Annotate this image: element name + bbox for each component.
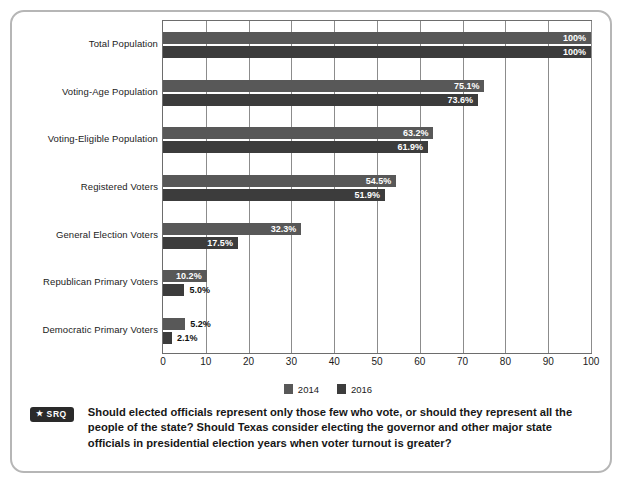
bar-row: 61.9% [163, 141, 591, 153]
x-axis-tick: 90 [543, 356, 554, 367]
bar-row: 10.2% [163, 270, 591, 282]
bar-value-label: 63.2% [163, 127, 428, 139]
plot-area: 100%100%75.1%73.6%63.2%61.9%54.5%51.9%32… [162, 20, 592, 354]
bar-value-label: 5.0% [189, 284, 210, 296]
bar-value-label: 32.3% [163, 223, 296, 235]
category-label: Republican Primary Voters [12, 276, 158, 287]
bar-row: 17.5% [163, 237, 591, 249]
bar-value-label: 75.1% [163, 80, 479, 92]
category-label: Voting-Age Population [12, 86, 158, 97]
bar-value-label: 51.9% [163, 189, 380, 201]
bar-row: 32.3% [163, 223, 591, 235]
x-axis-tick: 40 [329, 356, 340, 367]
star-icon: ★ [36, 410, 44, 418]
bar-row: 75.1% [163, 80, 591, 92]
x-axis-tick: 100 [583, 356, 600, 367]
caption-text: Should elected officials represent only … [88, 405, 596, 451]
srq-badge-label: SRQ [47, 409, 67, 419]
x-axis-tick: 50 [371, 356, 382, 367]
legend-item-2016[interactable]: 2016 [337, 384, 372, 395]
srq-badge: ★ SRQ [30, 407, 74, 422]
bar-2014 [163, 318, 185, 330]
x-axis-tick: 10 [200, 356, 211, 367]
legend-item-2014[interactable]: 2014 [284, 384, 319, 395]
legend-swatch-icon [284, 384, 293, 394]
bar-row: 2.1% [163, 332, 591, 344]
category-label: Total Population [12, 38, 158, 49]
category-label: Democratic Primary Voters [12, 324, 158, 335]
x-axis-tick-labels: 0102030405060708090100 [162, 356, 592, 372]
bar-chart: Total PopulationVoting-Age PopulationVot… [12, 12, 614, 362]
x-axis-tick: 60 [414, 356, 425, 367]
legend-label: 2016 [351, 384, 372, 395]
bar-row: 54.5% [163, 175, 591, 187]
bar-value-label: 73.6% [163, 94, 473, 106]
x-axis-tick: 30 [286, 356, 297, 367]
bar-value-label: 17.5% [163, 237, 233, 249]
category-label: Voting-Eligible Population [12, 133, 158, 144]
x-axis-tick: 70 [457, 356, 468, 367]
bar-value-label: 100% [163, 46, 586, 58]
bar-row: 51.9% [163, 189, 591, 201]
bar-value-label: 54.5% [163, 175, 391, 187]
category-label: Registered Voters [12, 181, 158, 192]
bar-row: 5.0% [163, 284, 591, 296]
bar-row: 5.2% [163, 318, 591, 330]
bar-value-label: 61.9% [163, 141, 423, 153]
x-axis-tick: 80 [500, 356, 511, 367]
legend-swatch-icon [337, 384, 346, 394]
bar-value-label: 5.2% [190, 318, 211, 330]
bar-value-label: 100% [163, 32, 586, 44]
legend-label: 2014 [298, 384, 319, 395]
chart-legend: 20142016 [12, 381, 614, 397]
x-axis-tick: 0 [160, 356, 166, 367]
x-axis-tick: 20 [243, 356, 254, 367]
bar-2016 [163, 284, 184, 296]
bar-2016 [163, 332, 172, 344]
bar-row: 100% [163, 46, 591, 58]
gridline [591, 21, 592, 353]
bar-value-label: 2.1% [177, 332, 198, 344]
category-label: General Election Voters [12, 229, 158, 240]
bars-layer: 100%100%75.1%73.6%63.2%61.9%54.5%51.9%32… [163, 21, 591, 353]
caption-block: ★ SRQ Should elected officials represent… [30, 405, 596, 451]
figure-panel: Total PopulationVoting-Age PopulationVot… [10, 10, 612, 473]
bar-row: 100% [163, 32, 591, 44]
category-axis-labels: Total PopulationVoting-Age PopulationVot… [12, 20, 158, 362]
bar-row: 63.2% [163, 127, 591, 139]
bar-row: 73.6% [163, 94, 591, 106]
bar-value-label: 10.2% [163, 270, 202, 282]
